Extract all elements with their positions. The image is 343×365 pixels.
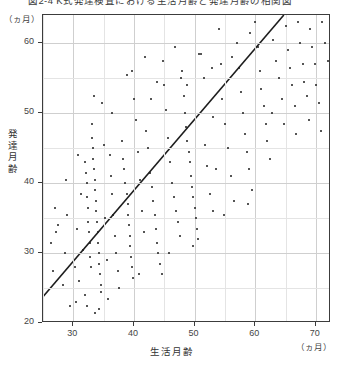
scatter-point [74,266,76,268]
y-axis-tick-label: 60 [16,36,34,46]
scatter-point [110,175,112,177]
scatter-point [285,25,287,27]
scatter-point [161,273,163,275]
scatter-point [287,49,289,51]
scatter-point [129,235,131,237]
scatter-point [97,231,99,233]
scatter-point [121,140,123,142]
scatter-point [137,151,139,153]
scatter-point [103,144,105,146]
scatter-point [85,172,87,174]
x-axis-tick-label: 30 [61,328,83,338]
gridline-horizontal [43,218,329,219]
scatter-point [206,165,208,167]
gridline-vertical [195,15,196,321]
scatter-point [117,270,119,272]
x-axis-tick [194,322,195,326]
scatter-point [91,137,93,139]
scatter-point [311,46,313,48]
scatter-point [133,98,135,100]
scatter-point [143,231,145,233]
scatter-point [244,133,246,135]
x-axis-unit: （ヵ月） [296,340,332,352]
scatter-point [127,203,129,205]
scatter-point [52,270,54,272]
scatter-point [138,273,140,275]
scatter-point [114,235,116,237]
gridline-vertical [104,15,105,321]
scatter-point [141,210,143,212]
gridline-horizontal [43,78,329,79]
scatter-point [98,252,100,254]
scatter-point [189,161,191,163]
scatter-point [320,130,322,132]
scatter-point [218,28,220,30]
scatter-point [75,301,77,303]
scatter-point [109,154,111,156]
scatter-point [291,84,293,86]
gridline-vertical [316,15,317,321]
scatter-point [212,116,214,118]
scatter-point [318,102,320,104]
scatter-point [92,147,94,149]
scatter-point [86,305,88,307]
gridline-vertical [43,15,44,321]
scatter-point [132,277,134,279]
scatter-point [80,193,82,195]
scatter-point [230,175,232,177]
scatter-point [223,214,225,216]
scatter-point [94,312,96,314]
scatter-point [54,207,56,209]
scatter-point [122,158,124,160]
scatter-point [154,214,156,216]
y-axis-tick-label: 20 [16,316,34,326]
scatter-point [145,130,147,132]
scatter-point [149,172,151,174]
scatter-point [308,119,310,121]
scatter-point [184,112,186,114]
gridline-horizontal [43,43,329,44]
scatter-point [64,252,66,254]
scatter-point [173,196,175,198]
scatter-point [95,200,97,202]
scatter-point [327,60,329,62]
scatter-point [100,291,102,293]
y-axis-tick [38,322,42,323]
scatter-point [195,217,197,219]
scatter-point [240,91,242,93]
scatter-point [211,67,213,69]
scatter-point [177,221,179,223]
scatter-point [165,109,167,111]
scatter-point [183,95,185,97]
scatter-point [315,84,317,86]
x-axis-tick-label: 40 [122,328,144,338]
scatter-point [196,228,198,230]
scatter-point [97,242,99,244]
scatter-point [87,207,89,209]
x-axis-tick [254,322,255,326]
scatter-point [162,60,164,62]
scatter-point [159,263,161,265]
scatter-point [62,284,64,286]
scatter-point [246,151,248,153]
plot-area [42,14,330,322]
y-axis-tick [38,252,42,253]
y-axis-tick [38,112,42,113]
scatter-point [297,21,299,23]
scatter-point [188,151,190,153]
gridline-horizontal [43,288,329,289]
scatter-point [257,46,259,48]
x-axis-title: 生活月齢 [0,344,343,358]
scatter-point [247,203,249,205]
y-axis-tick-label: 40 [16,176,34,186]
gridline-horizontal [43,148,329,149]
scatter-point [294,105,296,107]
scatter-point [89,256,91,258]
x-axis-tick [133,322,134,326]
scatter-point [174,46,176,48]
scatter-point [309,28,311,30]
x-axis-tick [315,322,316,326]
scatter-point [90,266,92,268]
gridline-vertical [73,15,74,321]
scatter-point [191,186,193,188]
